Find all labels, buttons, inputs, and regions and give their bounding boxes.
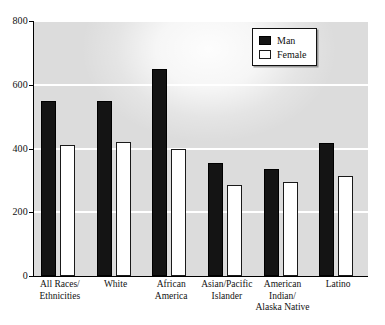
bar-female-5 <box>338 176 353 276</box>
bar-man-2 <box>152 69 167 276</box>
x-axis-label-line: Alaska Native <box>241 302 325 314</box>
bar-chart-figure: 0200400600800 All Races/EthnicitiesWhite… <box>0 0 385 325</box>
legend-swatch-man-icon <box>259 36 271 45</box>
y-tick-label: 600 <box>2 80 28 90</box>
legend-item-man: Man <box>259 33 306 47</box>
bar-man-5 <box>319 143 334 276</box>
bar-female-2 <box>171 149 186 276</box>
legend-item-female: Female <box>259 47 306 61</box>
y-tick-200: 200 <box>0 207 28 217</box>
y-tick-mark <box>29 212 34 213</box>
y-tick-mark <box>29 21 34 22</box>
bar-female-4 <box>283 182 298 276</box>
y-tick-800: 800 <box>0 16 28 26</box>
plot-area <box>34 21 368 276</box>
x-axis-line <box>33 276 368 277</box>
y-tick-mark <box>29 276 34 277</box>
x-axis-label-5: Latino <box>296 279 380 291</box>
bar-man-4 <box>264 169 279 276</box>
legend-label-man: Man <box>277 35 295 46</box>
gridline-200 <box>34 211 368 213</box>
gridline-600 <box>34 84 368 86</box>
bar-female-3 <box>227 185 242 276</box>
bar-female-0 <box>60 145 75 276</box>
gridline-400 <box>34 148 368 150</box>
legend-swatch-female-icon <box>259 50 271 59</box>
bar-man-3 <box>208 163 223 276</box>
legend-label-female: Female <box>277 49 306 60</box>
bar-female-1 <box>116 142 131 277</box>
y-tick-400: 400 <box>0 144 28 154</box>
bar-man-0 <box>41 101 56 276</box>
x-axis-label-line: Indian/ <box>241 291 325 303</box>
y-tick-label: 200 <box>2 207 28 217</box>
y-tick-label: 400 <box>2 144 28 154</box>
gridline-800 <box>34 21 368 22</box>
y-tick-label: 800 <box>2 16 28 26</box>
bar-man-1 <box>97 101 112 276</box>
chart-legend: Man Female <box>252 28 317 66</box>
y-tick-mark <box>29 85 34 86</box>
x-axis-label-line: Latino <box>296 279 380 291</box>
y-tick-600: 600 <box>0 80 28 90</box>
x-axis-label-line: Ethnicities <box>18 291 102 303</box>
y-tick-mark <box>29 149 34 150</box>
